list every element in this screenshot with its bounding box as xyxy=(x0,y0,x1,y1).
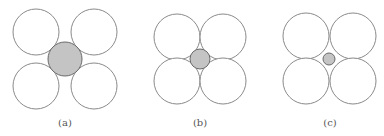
large-sphere xyxy=(330,58,376,104)
panel-label: (b) xyxy=(193,117,207,128)
panel-label: (c) xyxy=(323,117,337,128)
interstitial-sphere xyxy=(323,53,335,65)
interstitial-sphere-diagram: (a) (b) (c) xyxy=(0,0,384,136)
large-sphere xyxy=(283,58,329,104)
panel-b: (b) xyxy=(154,14,246,128)
panel-c: (c) xyxy=(283,13,376,128)
interstitial-sphere xyxy=(48,42,82,76)
large-sphere xyxy=(330,13,376,59)
large-sphere xyxy=(283,13,329,59)
interstitial-sphere xyxy=(190,49,210,69)
panel-label: (a) xyxy=(58,117,72,128)
panel-a: (a) xyxy=(13,9,117,128)
